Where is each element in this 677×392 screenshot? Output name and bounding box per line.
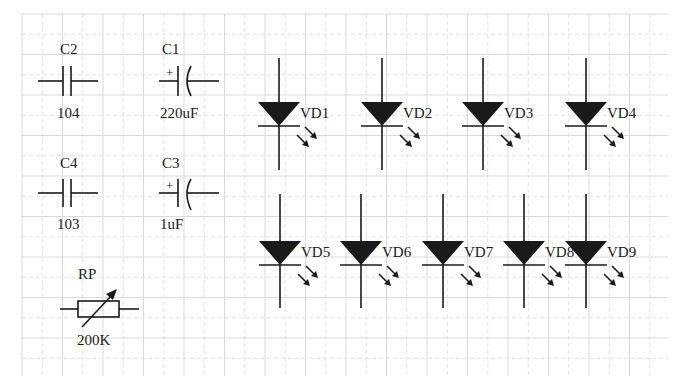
led-vd6[interactable]: VD6 <box>340 194 412 308</box>
led-vd5[interactable]: VD5 <box>259 194 330 308</box>
capacitor-c1[interactable]: C1 + 220uF <box>159 41 219 121</box>
capacitor-c3-ref: C3 <box>162 155 180 171</box>
diode-triangle-icon <box>361 102 403 126</box>
capacitor-c4-ref: C4 <box>60 155 78 171</box>
capacitor-c2[interactable]: C2 104 <box>38 41 98 121</box>
potentiometer-rp-value: 200K <box>77 332 111 348</box>
led-vd8[interactable]: VD8 <box>503 194 574 308</box>
capacitor-c1-plus-sign: + <box>166 65 173 80</box>
diode-triangle-icon <box>565 102 607 126</box>
capacitor-c4[interactable]: C4 103 <box>38 155 98 232</box>
diode-triangle-icon <box>503 241 545 265</box>
schematic-canvas: C2 104 C1 + 220uF C4 103 C3 + 1uF RP <box>0 0 677 392</box>
capacitor-c2-value: 104 <box>57 105 80 121</box>
capacitor-c3[interactable]: C3 + 1uF <box>159 155 219 232</box>
led-ref-label: VD2 <box>403 105 432 121</box>
diode-triangle-icon <box>462 102 504 126</box>
capacitor-c1-value: 220uF <box>160 105 198 121</box>
capacitor-c4-value: 103 <box>57 216 80 232</box>
diode-triangle-icon <box>422 241 464 265</box>
grid <box>22 14 668 376</box>
led-ref-label: VD3 <box>504 105 533 121</box>
potentiometer-rp[interactable]: RP 200K <box>60 266 139 348</box>
potentiometer-arrow-icon <box>106 289 117 300</box>
capacitor-c3-plus-sign: + <box>166 178 173 193</box>
led-ref-label: VD9 <box>607 244 636 260</box>
diode-triangle-icon <box>258 102 300 126</box>
led-ref-label: VD7 <box>464 244 494 260</box>
led-ref-label: VD6 <box>382 244 412 260</box>
potentiometer-rp-ref: RP <box>78 266 96 282</box>
led-ref-label: VD4 <box>607 105 637 121</box>
capacitor-c1-ref: C1 <box>162 41 180 57</box>
led-vd9[interactable]: VD9 <box>565 194 636 308</box>
led-vd7[interactable]: VD7 <box>422 194 494 308</box>
led-ref-label: VD5 <box>301 244 330 260</box>
led-ref-label: VD1 <box>300 105 329 121</box>
capacitor-c3-value: 1uF <box>160 216 183 232</box>
capacitor-c2-ref: C2 <box>60 41 78 57</box>
